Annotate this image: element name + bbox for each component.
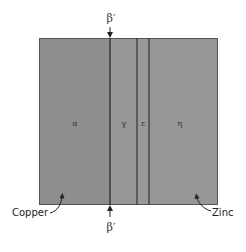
gamma-label: γ	[122, 120, 127, 128]
bottom-arrow-icon	[107, 205, 113, 217]
bottom-beta-prime-label: β′	[107, 222, 116, 233]
copper-label: Copper	[12, 208, 48, 218]
top-arrow-icon	[107, 27, 113, 38]
zinc-label: Zinc	[212, 208, 233, 218]
epsilon-label: ε	[141, 120, 145, 128]
alpha-label: α	[72, 120, 77, 128]
eta-label: η	[178, 120, 183, 128]
top-beta-prime-label: β′	[107, 13, 116, 24]
eta-region	[149, 38, 218, 205]
